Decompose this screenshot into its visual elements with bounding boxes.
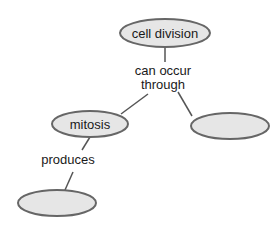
link-label-line1: produces	[41, 152, 95, 167]
link-label-produces: produces	[41, 152, 95, 167]
node-ellipse	[18, 190, 96, 216]
link-label-line2: through	[141, 77, 185, 92]
node-cell-division[interactable]: cell division	[120, 19, 210, 47]
node-label: cell division	[132, 26, 198, 41]
node-label: mitosis	[70, 117, 111, 132]
connector-label-to-blank-bottom	[65, 172, 73, 190]
connector-label-to-mitosis	[121, 94, 148, 114]
node-blank-right[interactable]	[191, 113, 269, 139]
link-label-line1: can occur	[135, 63, 192, 78]
node-blank-bottom[interactable]	[18, 190, 96, 216]
link-label-can-occur-through: can occur through	[135, 63, 192, 92]
connector-mitosis-to-label	[82, 137, 90, 150]
node-mitosis[interactable]: mitosis	[52, 111, 128, 137]
connector-label-to-blank-right	[178, 92, 192, 116]
node-ellipse	[191, 113, 269, 139]
concept-map-svg: cell division can occur through mitosis …	[0, 0, 276, 228]
concept-map: cell division can occur through mitosis …	[0, 0, 276, 228]
